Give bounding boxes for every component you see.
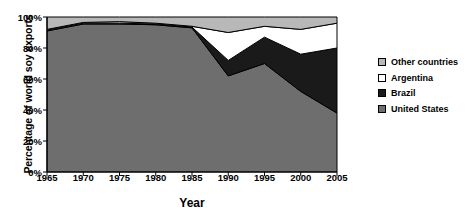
legend-item: Brazil (378, 86, 470, 100)
x-axis-title: Year (47, 196, 337, 210)
chart-container: Percentage of world soy exports 0%20%40%… (0, 0, 471, 222)
legend-item: United States (378, 102, 470, 116)
stacked-areas (47, 17, 337, 172)
legend-swatch-icon (378, 74, 386, 82)
x-tick-label: 2000 (290, 172, 311, 183)
x-tick-label: 1985 (181, 172, 202, 183)
legend-swatch-icon (378, 105, 386, 113)
x-tick-label: 2005 (326, 172, 347, 183)
x-tick-label: 1965 (36, 172, 57, 183)
chart-legend: Other countriesArgentinaBrazilUnited Sta… (378, 55, 470, 117)
legend-label: United States (391, 104, 449, 114)
legend-item: Other countries (378, 55, 470, 69)
x-tick-label: 1975 (109, 172, 130, 183)
x-tick-label: 1980 (145, 172, 166, 183)
x-tick-label: 1990 (218, 172, 239, 183)
x-tick-label: 1995 (254, 172, 275, 183)
legend-item: Argentina (378, 71, 470, 85)
x-axis-tick-labels: 196519701975198019851990199520002005 (0, 172, 471, 188)
legend-label: Argentina (391, 73, 433, 83)
legend-label: Other countries (391, 57, 458, 67)
x-tick-label: 1970 (73, 172, 94, 183)
legend-swatch-icon (378, 58, 386, 66)
legend-swatch-icon (378, 89, 386, 97)
legend-label: Brazil (391, 88, 416, 98)
